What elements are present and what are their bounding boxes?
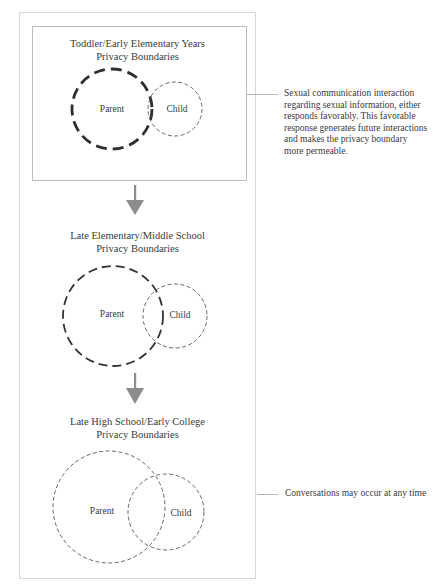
stage3-note-connector [257,494,278,495]
stage2-title-line2: Privacy Boundaries [19,243,256,256]
stage1-note-line: Sexual communication interaction [284,88,435,100]
stage3-child-boundary [128,474,204,550]
stage1-title: Toddler/Early Elementary Years Privacy B… [19,38,256,63]
stage1-note-line: response generates future interactions [284,123,435,135]
stage1-note-line: responds favorably. This favorable [284,111,435,123]
down-arrow-icon [126,185,144,215]
stage1-note-line: and makes the privacy boundary [284,134,435,146]
stage2-child-label: Child [169,310,190,320]
stage3-child-label: Child [170,508,191,518]
stage1-parent-label: Parent [100,104,124,114]
stage1-child-label: Child [166,104,187,114]
down-arrow-icon [126,373,144,404]
stage1-title-line1: Toddler/Early Elementary Years [19,38,256,51]
stage1-note-line: regarding sexual information, either [284,100,435,112]
stage3-title-line2: Privacy Boundaries [19,429,256,442]
stage1-note-line: more permeable. [284,146,435,158]
stage3-parent-label: Parent [90,506,114,516]
stage2-title-line1: Late Elementary/Middle School [19,230,256,243]
stage2-parent-label: Parent [100,309,124,319]
stage1-note: Sexual communication interaction regardi… [284,88,435,157]
stage3-title: Late High School/Early College Privacy B… [19,416,256,441]
stage2-title: Late Elementary/Middle School Privacy Bo… [19,230,256,255]
stage3-title-line1: Late High School/Early College [19,416,256,429]
stage1-note-connector [247,94,278,95]
stage3-note: Conversations may occur at any time [285,488,426,500]
stage1-title-line2: Privacy Boundaries [19,51,256,64]
